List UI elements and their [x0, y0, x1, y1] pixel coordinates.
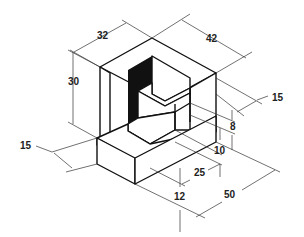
dim-top-width: 42	[206, 33, 218, 44]
isometric-drawing: 32 42 30 15 15 8 10 25 12 50	[0, 0, 304, 237]
dim-lower-step-height: 10	[214, 145, 226, 156]
dim-overall-length: 50	[224, 189, 236, 200]
dim-left-step-offset: 15	[20, 140, 32, 151]
dim-step-depth: 25	[194, 167, 206, 178]
dim-upper-step-height: 8	[230, 121, 236, 132]
dim-top-depth: 32	[97, 30, 109, 41]
dim-right-step-offset: 15	[272, 92, 284, 103]
dim-overall-height: 30	[68, 76, 80, 87]
dim-base-height: 12	[174, 191, 186, 202]
block-object	[97, 38, 216, 184]
